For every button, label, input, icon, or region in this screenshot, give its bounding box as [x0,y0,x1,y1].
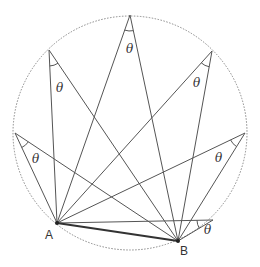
line-to-a-1 [49,50,57,223]
angle-arc-icon [201,63,209,67]
line-to-a-3 [57,51,212,223]
point-a-label: A [45,228,53,242]
theta-label: θ [193,76,201,90]
angle-arc-icon [231,140,237,147]
point-a-dot [55,221,59,225]
angle-arc-icon [22,142,29,148]
theta-label: θ [204,223,212,237]
theta-label: θ [215,151,223,165]
point-b-dot [176,239,180,243]
line-to-b-1 [49,50,178,241]
angle-arc-icon [197,220,199,228]
point-b-label: B [180,244,188,258]
theta-label: θ [126,42,134,56]
theta-label: θ [32,152,40,166]
line-to-b-0 [15,133,178,241]
angle-arc-icon [50,63,58,66]
angle-arc-icon [125,30,134,31]
theta-label: θ [56,81,64,95]
chord-ab [57,223,178,241]
line-to-b-2 [130,15,178,241]
line-to-a-2 [57,15,130,223]
inscribed-angle-diagram: θθθθθθAB [0,0,260,267]
